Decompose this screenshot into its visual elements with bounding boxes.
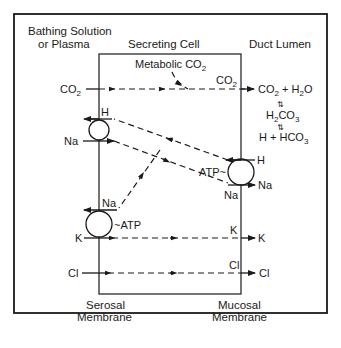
serosal-caption-line1: Serosal [86, 299, 125, 311]
cl-serosal-label: Cl [68, 267, 78, 279]
lumen-co2-h2o: CO2 + H2O [258, 83, 313, 98]
secreting-cell-header: Secreting Cell [128, 38, 200, 50]
co2-pathway: CO2 Metabolic CO2 CO2 [60, 58, 254, 98]
bathing-header-line1: Bathing Solution [28, 25, 112, 37]
co2-bathing-label: CO2 [60, 83, 82, 98]
serosal-membrane-caption: Serosal Membrane [77, 299, 132, 323]
bathing-header-line2: or Plasma [38, 38, 90, 50]
metabolic-co2-label: Metabolic CO2 [135, 58, 207, 73]
cl-pathway: Cl Cl Cl [68, 259, 269, 279]
na-serosal-label: Na [64, 135, 79, 147]
cl-cell-label: Cl [229, 259, 239, 271]
serosal-caption-line2: Membrane [77, 311, 132, 323]
mucosal-membrane-caption: Mucosal Membrane [212, 299, 267, 323]
h-na-atpase-circle [228, 159, 254, 185]
secretion-transport-diagram: Bathing Solution or Plasma Secreting Cel… [0, 0, 341, 348]
k-cell-label: K [230, 224, 238, 236]
na-lumen-label: Na [258, 179, 273, 191]
atp-pump-label: ~ATP [114, 219, 141, 231]
na-cell-right-label: Na [224, 189, 239, 201]
equilibrium-arrows-1: ⇅ [277, 100, 284, 109]
co2-cell-label: CO2 [216, 74, 238, 89]
lumen-carbonic-equilibrium: CO2 + H2O ⇅ H2CO3 ⇅ H + HCO3 [258, 83, 313, 146]
na-k-pump-circle [86, 211, 112, 237]
h-na-carrier-circle [89, 120, 109, 140]
lumen-h-hco3: H + HCO3 [259, 131, 309, 146]
atp-right-label: ATP~ [199, 166, 226, 178]
h-lumen-label: H [257, 154, 265, 166]
bathing-solution-header: Bathing Solution or Plasma [28, 25, 112, 50]
na-pump-label: Na [102, 197, 117, 209]
lumen-h2co3: H2CO3 [266, 109, 300, 124]
serosal-na-k-pump: Na ~ATP K [75, 150, 160, 244]
mucosal-caption-line1: Mucosal [218, 299, 261, 311]
k-serosal-label: K [75, 232, 83, 244]
k-lumen-label: K [258, 232, 266, 244]
mucosal-h-na-atpase: H ATP~ Na Na [199, 154, 273, 201]
mucosal-caption-line2: Membrane [212, 311, 267, 323]
cl-lumen-label: Cl [259, 267, 269, 279]
duct-lumen-header: Duct Lumen [249, 38, 311, 50]
h-serosal-label: H [101, 106, 109, 118]
